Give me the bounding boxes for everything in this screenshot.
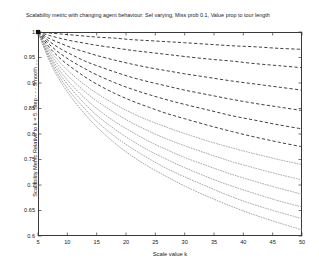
chart-title: Scalability metric with changing agent b…	[26, 11, 318, 19]
x-tick-label: 25	[147, 239, 163, 245]
x-tick-label: 30	[177, 239, 193, 245]
y-axis-label: Scalability Metric Relative to k = 5: St…	[32, 33, 38, 223]
x-tick-label: 15	[89, 239, 105, 245]
x-tick-label: 20	[118, 239, 134, 245]
y-tick-label: 0.6	[19, 233, 35, 239]
plot-area	[38, 32, 302, 236]
x-tick-label: 50	[294, 239, 310, 245]
x-tick-label: 10	[59, 239, 75, 245]
x-tick-label: 35	[206, 239, 222, 245]
x-tick-label: 40	[235, 239, 251, 245]
x-axis-label: Scale value k	[38, 251, 302, 257]
figure-container: Scalability metric with changing agent b…	[0, 0, 319, 271]
x-tick-label: 5	[30, 239, 46, 245]
x-tick-label: 45	[265, 239, 281, 245]
